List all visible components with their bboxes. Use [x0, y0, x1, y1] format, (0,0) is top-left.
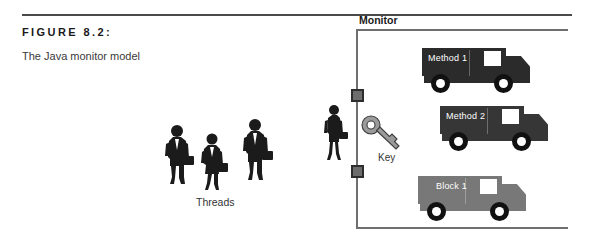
truck-rear-wheel — [490, 202, 509, 221]
truck-hood — [506, 56, 530, 76]
figure-caption: The Java monitor model — [22, 50, 140, 62]
monitor-holder-silhouette-icon — [320, 104, 350, 166]
truck-window — [502, 109, 519, 124]
figure-top-rule — [22, 14, 572, 16]
figure-container: FIGURE 8.2: The Java monitor model Monit… — [0, 0, 594, 240]
truck-front-wheel — [427, 202, 446, 221]
truck-front-wheel — [431, 74, 450, 93]
resource-truck-method-1: Method 1 — [422, 48, 534, 94]
truck-window — [480, 179, 497, 194]
truck-hood — [524, 114, 548, 134]
thread-silhouette-1 — [162, 124, 196, 190]
thread-silhouette-2 — [198, 132, 230, 196]
connector-upper — [351, 89, 364, 102]
truck-front-wheel — [449, 132, 468, 151]
key-label: Key — [378, 152, 395, 163]
truck-rear-wheel — [494, 74, 513, 93]
threads-label: Threads — [196, 196, 235, 208]
truck-label: Method 2 — [446, 111, 485, 121]
resource-truck-method-2: Method 2 — [440, 106, 552, 152]
thread-silhouette-3 — [240, 118, 274, 186]
monitor-bracket-top — [356, 29, 568, 31]
connector-lower — [351, 165, 364, 178]
truck-label: Method 1 — [428, 53, 467, 63]
truck-rear-wheel — [512, 132, 531, 151]
resource-truck-block-1: Block 1 — [418, 176, 530, 222]
figure-number-label: FIGURE 8.2: — [22, 26, 112, 38]
truck-hood — [502, 184, 526, 204]
truck-label: Block 1 — [436, 181, 467, 191]
monitor-bracket-bottom — [356, 227, 568, 229]
truck-window — [484, 51, 501, 66]
monitor-title: Monitor — [359, 14, 398, 26]
